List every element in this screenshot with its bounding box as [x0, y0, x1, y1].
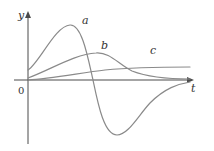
- curve-a-label: a: [82, 14, 89, 27]
- curve-b: [28, 53, 190, 79]
- y-axis-arrow-icon: [25, 11, 31, 18]
- curve-c-label: c: [150, 44, 156, 57]
- y-axis-label: y: [17, 9, 25, 22]
- x-axis-label: t: [191, 82, 196, 95]
- chart: y t 0 a b c: [0, 0, 214, 151]
- curve-b-label: b: [101, 39, 108, 52]
- origin-label: 0: [18, 85, 24, 96]
